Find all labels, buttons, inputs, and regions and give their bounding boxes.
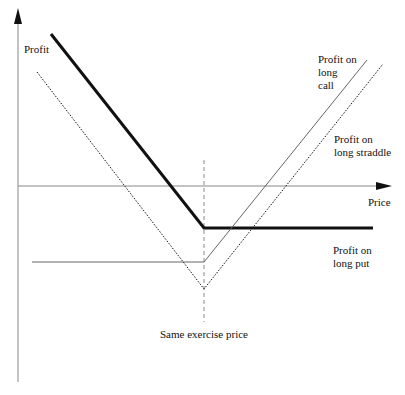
long-put-label: Profit on long put (333, 244, 372, 270)
long-call-line (32, 60, 367, 262)
long-call-label: Profit on long call (318, 53, 357, 92)
x-axis-arrow-icon (376, 182, 392, 190)
exercise-price-label: Same exercise price (160, 328, 248, 341)
price-axis-label: Price (368, 196, 391, 209)
y-axis-arrow-icon (14, 8, 22, 24)
long-straddle-label: Profit on long straddle (334, 133, 391, 159)
profit-axis-label: Profit (24, 43, 49, 56)
